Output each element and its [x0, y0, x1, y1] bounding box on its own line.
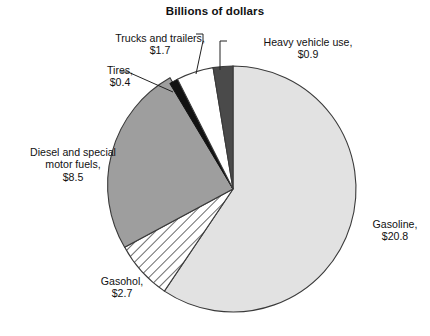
chart-canvas: Billions of dollars Trucks and trailers,… — [0, 0, 430, 336]
pie-label-diesel: Diesel and special motor fuels, $8.5 — [6, 146, 140, 183]
pie-label-heavy-vehicle-use: Heavy vehicle use, $0.9 — [228, 36, 388, 61]
pie-label-gasohol: Gasohol, $2.7 — [80, 275, 164, 300]
pie-label-trucks-and-trailers: Trucks and trailers, $1.7 — [80, 32, 240, 57]
pie-label-gasoline: Gasoline, $20.8 — [362, 218, 428, 243]
pie-label-tires: Tires, $0.4 — [72, 64, 168, 89]
